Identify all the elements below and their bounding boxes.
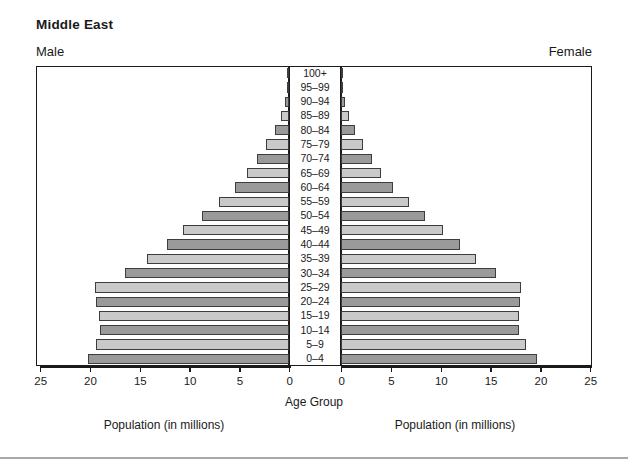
left-15-tick-label: 15 <box>134 375 147 387</box>
age-group-label: 35–39 <box>289 252 341 265</box>
left-0-tick <box>289 366 290 372</box>
left-15-tick <box>140 366 141 372</box>
left-5-tick-label: 5 <box>237 375 243 387</box>
bar-female-30-34 <box>341 268 496 278</box>
bar-male-25-29 <box>95 282 289 292</box>
age-group-label: 40–44 <box>289 238 341 251</box>
age-group-label: 25–29 <box>289 281 341 294</box>
right-15-tick <box>490 366 491 372</box>
bar-male-35-39 <box>147 254 289 264</box>
bar-female-100+ <box>341 68 343 78</box>
age-group-label: 65–69 <box>289 167 341 180</box>
age-group-label: 20–24 <box>289 295 341 308</box>
axis-label-population-right: Population (in millions) <box>395 418 516 432</box>
bar-male-50-54 <box>202 211 289 221</box>
right-20-tick <box>540 366 541 372</box>
left-0-tick-label: 0 <box>286 375 292 387</box>
bar-female-70-74 <box>341 154 372 164</box>
right-10-tick <box>441 366 442 372</box>
bar-female-15-19 <box>341 311 519 321</box>
age-group-label: 55–59 <box>289 195 341 208</box>
x-axis-line-left <box>40 366 291 368</box>
bar-female-80-84 <box>341 125 355 135</box>
bar-female-75-79 <box>341 139 363 149</box>
age-group-label: 50–54 <box>289 209 341 222</box>
right-5-tick-label: 5 <box>388 375 394 387</box>
left-20-tick-label: 20 <box>84 375 97 387</box>
age-group-label: 60–64 <box>289 181 341 194</box>
right-15-tick-label: 15 <box>485 375 498 387</box>
bar-male-0-4 <box>88 354 289 364</box>
bar-male-30-34 <box>125 268 289 278</box>
age-group-label: 45–49 <box>289 224 341 237</box>
age-group-label: 75–79 <box>289 138 341 151</box>
bar-female-65-69 <box>341 168 381 178</box>
age-group-label: 80–84 <box>289 124 341 137</box>
bar-female-45-49 <box>341 225 443 235</box>
age-group-label: 85–89 <box>289 109 341 122</box>
right-0-tick-label: 0 <box>338 375 344 387</box>
bar-male-65-69 <box>247 168 289 178</box>
bar-male-85-89 <box>281 111 289 121</box>
right-5-tick <box>391 366 392 372</box>
right-20-tick-label: 20 <box>534 375 547 387</box>
page-title: Middle East <box>36 17 113 32</box>
left-25-tick <box>40 366 41 372</box>
bar-male-40-44 <box>167 239 290 249</box>
left-5-tick <box>239 366 240 372</box>
age-group-label: 95–99 <box>289 81 341 94</box>
bar-male-5-9 <box>96 339 289 349</box>
bar-male-80-84 <box>275 125 289 135</box>
axis-label-population-left: Population (in millions) <box>104 418 225 432</box>
bar-female-90-94 <box>341 97 345 107</box>
age-group-label: 15–19 <box>289 309 341 322</box>
bar-female-0-4 <box>341 354 537 364</box>
left-20-tick <box>90 366 91 372</box>
bar-female-85-89 <box>341 111 349 121</box>
x-axis-line-right <box>341 366 592 368</box>
age-group-label: 10–14 <box>289 324 341 337</box>
age-group-label: 100+ <box>289 67 341 80</box>
left-25-tick-label: 25 <box>34 375 47 387</box>
age-group-label: 30–34 <box>289 267 341 280</box>
bar-female-50-54 <box>341 211 425 221</box>
age-group-labels: 100+95–9990–9485–8980–8475–7970–7465–696… <box>289 66 341 366</box>
age-group-label: 0–4 <box>289 352 341 365</box>
age-group-label: 5–9 <box>289 338 341 351</box>
right-0-tick <box>341 366 342 372</box>
bar-male-20-24 <box>96 297 289 307</box>
footer-divider <box>0 457 628 459</box>
bar-male-15-19 <box>99 311 289 321</box>
bar-female-40-44 <box>341 239 460 249</box>
left-10-tick <box>189 366 190 372</box>
bar-male-60-64 <box>235 182 289 192</box>
bar-female-60-64 <box>341 182 393 192</box>
right-10-tick-label: 10 <box>435 375 448 387</box>
right-25-tick-label: 25 <box>584 375 597 387</box>
bar-male-55-59 <box>219 197 289 207</box>
bar-male-75-79 <box>266 139 289 149</box>
axis-label-age-group: Age Group <box>285 395 343 409</box>
bar-female-35-39 <box>341 254 476 264</box>
population-pyramid-figure: Middle East Male Female 100+95–9990–9485… <box>0 0 628 471</box>
bar-female-55-59 <box>341 197 409 207</box>
bar-male-70-74 <box>257 154 289 164</box>
male-side-label: Male <box>36 44 64 59</box>
left-10-tick-label: 10 <box>184 375 197 387</box>
bar-female-25-29 <box>341 282 521 292</box>
bar-male-45-49 <box>183 225 289 235</box>
female-side-label: Female <box>549 44 592 59</box>
bar-male-10-14 <box>100 325 289 335</box>
right-25-tick <box>590 366 591 372</box>
bar-female-5-9 <box>341 339 526 349</box>
age-group-label: 90–94 <box>289 95 341 108</box>
age-group-label: 70–74 <box>289 152 341 165</box>
bar-female-95-99 <box>341 82 343 92</box>
bar-female-20-24 <box>341 297 520 307</box>
bar-female-10-14 <box>341 325 519 335</box>
